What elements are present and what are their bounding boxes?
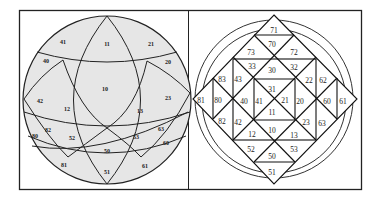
region-label: 40 — [43, 58, 49, 64]
region-label: 50 — [104, 148, 110, 154]
cell-label: 73 — [247, 48, 255, 57]
cell-label: 43 — [234, 75, 242, 84]
cell-label: 30 — [268, 66, 276, 75]
sphere-and-diamond-diagram: 11 41 21 40 20 10 42 23 12 13 82 63 80 5… — [0, 0, 382, 206]
cell-label: 20 — [296, 97, 304, 106]
cell-label: 52 — [247, 145, 255, 154]
region-label: 21 — [148, 41, 154, 47]
cell-label: 10 — [268, 126, 276, 135]
region-label: 10 — [102, 86, 108, 92]
cell-label: 12 — [248, 130, 256, 139]
region-label: 82 — [45, 127, 51, 133]
cell-label: 11 — [268, 108, 275, 117]
region-label: 20 — [165, 59, 171, 65]
region-label: 42 — [37, 98, 43, 104]
region-label: 23 — [165, 95, 171, 101]
cell-label: 23 — [302, 118, 310, 127]
cell-label: 70 — [268, 40, 276, 49]
region-label: 52 — [69, 135, 75, 141]
cell-label: 33 — [248, 62, 256, 71]
cell-label: 13 — [290, 131, 298, 140]
cell-label: 60 — [323, 97, 331, 106]
region-label: 12 — [64, 106, 70, 112]
region-label: 60 — [163, 140, 169, 146]
cell-label: 83 — [218, 75, 226, 84]
region-label: 63 — [158, 126, 164, 132]
right-diamond-panel: 71 70 73 72 33 30 32 83 43 22 62 31 81 8… — [193, 15, 357, 184]
cell-label: 51 — [268, 168, 276, 177]
region-label: 11 — [104, 41, 110, 47]
region-label: 41 — [60, 39, 66, 45]
cell-label: 80 — [214, 96, 222, 105]
region-label: 53 — [133, 134, 139, 140]
cell-label: 22 — [305, 76, 313, 85]
cell-label: 42 — [234, 118, 242, 127]
cell-label: 40 — [240, 97, 248, 106]
region-label: 80 — [32, 133, 38, 139]
cell-label: 62 — [319, 76, 327, 85]
left-sphere-panel: 11 41 21 40 20 10 42 23 12 13 82 63 80 5… — [23, 16, 191, 184]
cell-label: 72 — [290, 48, 298, 57]
cell-label: 32 — [290, 63, 298, 72]
region-label: 51 — [104, 169, 110, 175]
cell-label: 71 — [270, 26, 278, 35]
cell-label: 41 — [255, 97, 263, 106]
cell-label: 53 — [290, 145, 298, 154]
cell-label: 61 — [339, 97, 347, 106]
region-label: 61 — [142, 163, 148, 169]
cell-label: 21 — [281, 96, 289, 105]
cell-label: 63 — [318, 119, 326, 128]
cell-label: 81 — [197, 96, 205, 105]
region-label: 81 — [61, 162, 67, 168]
cell-label: 31 — [268, 85, 276, 94]
cell-label: 50 — [268, 152, 276, 161]
cell-label: 82 — [218, 117, 226, 126]
region-label: 13 — [137, 108, 143, 114]
